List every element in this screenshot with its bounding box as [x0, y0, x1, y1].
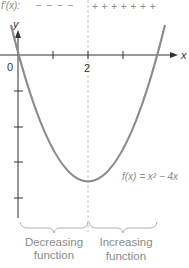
decreasing-label-line2: function: [34, 249, 74, 261]
increasing-brace: [89, 222, 157, 233]
function-curve: [11, 25, 165, 182]
x-tick-label-2: 2: [84, 62, 90, 74]
increasing-label-line2: function: [106, 250, 146, 262]
chart-canvas: f′(x): − − − − + + + + + + + x 0 2 y f(x…: [0, 0, 189, 268]
x-axis-label: x: [180, 49, 187, 61]
decreasing-brace: [20, 222, 88, 233]
increasing-label-line1: Increasing: [99, 236, 152, 248]
decreasing-label-line1: Decreasing: [25, 236, 83, 248]
origin-label: 0: [7, 61, 13, 73]
x-axis-arrow-icon: [170, 52, 178, 58]
function-label: f(x) = x² − 4x: [122, 171, 179, 182]
fprime-label: f′(x):: [1, 0, 20, 11]
minus-signs: − − − −: [36, 0, 75, 11]
y-axis-label: y: [12, 18, 20, 30]
y-axis-arrow-icon: [15, 30, 21, 38]
plus-signs: + + + + + + +: [92, 1, 156, 12]
